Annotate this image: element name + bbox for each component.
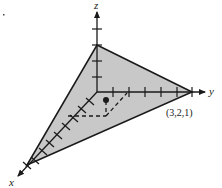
x-axis-label: x	[8, 176, 14, 188]
y-axis-label: y	[208, 85, 214, 97]
point-marker	[103, 97, 109, 103]
plane-triangle	[27, 45, 192, 165]
point-label: (3,2,1)	[166, 107, 193, 119]
z-axis-label: z	[93, 0, 99, 11]
diagram-canvas: z y x (3,2,1)	[0, 0, 222, 188]
speck	[3, 14, 5, 16]
